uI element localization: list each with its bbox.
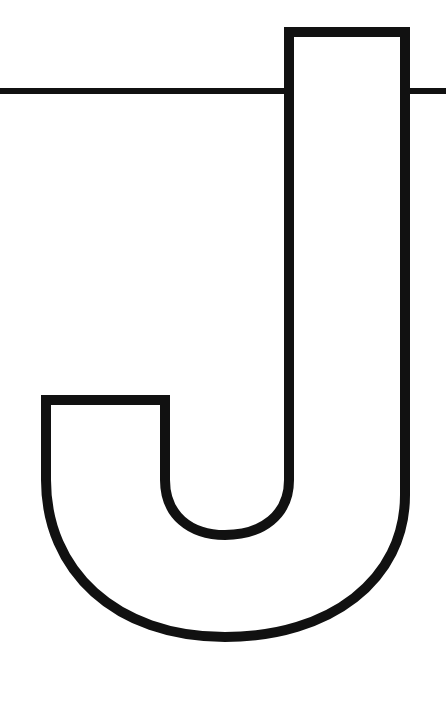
letter-j-illustration bbox=[0, 0, 446, 707]
letter-j-outline bbox=[46, 32, 405, 637]
